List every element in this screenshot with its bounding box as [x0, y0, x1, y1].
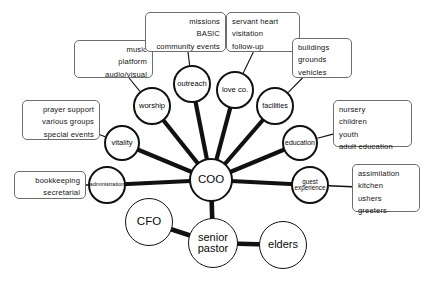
node-facilities[interactable]: facilities	[256, 87, 294, 125]
node-label-vitality: vitality	[110, 139, 133, 147]
node-label-guest-experience: guestexperience	[294, 179, 327, 192]
detail-line: vehicles	[298, 67, 346, 79]
node-label-education: education	[284, 139, 316, 146]
node-label-cfo: CFO	[136, 216, 162, 228]
detail-line: BASIC	[151, 28, 220, 40]
detail-line: secretarial	[20, 187, 80, 199]
node-outreach[interactable]: outreach	[173, 65, 211, 103]
node-label-facilities: facilities	[261, 102, 289, 109]
detail-line: platform	[80, 56, 147, 68]
node-label-elders: elders	[267, 239, 299, 250]
detail-line: visitation	[232, 28, 294, 40]
detail-line: assimilation	[358, 168, 414, 180]
detail-box-prayer: prayer supportvarious groupsspecial even…	[22, 100, 100, 140]
node-administration[interactable]: administration	[88, 166, 126, 204]
detail-line: youth	[339, 129, 406, 141]
node-label-worship: worship	[138, 102, 166, 110]
detail-box-servant: servant heartvisitationfollow-up	[226, 12, 300, 52]
detail-box-buildings: buildingsgroundsvehicles	[292, 38, 352, 78]
node-label-love-co: love co.	[221, 86, 249, 94]
detail-line: greeters	[358, 205, 414, 217]
connector-facilities-buildings	[288, 78, 302, 92]
connector-education-nursery	[317, 134, 333, 138]
node-elders[interactable]: elders	[259, 221, 307, 269]
connector-guest-assimilation	[329, 186, 352, 187]
node-cfo[interactable]: CFO	[125, 198, 173, 246]
node-coo[interactable]: COO	[189, 158, 233, 202]
detail-box-missions: missionsBASICcommunity events	[145, 12, 226, 52]
node-worship[interactable]: worship	[133, 87, 171, 125]
detail-line: missions	[151, 16, 220, 28]
detail-line: nursery	[339, 104, 406, 116]
connector-outreach-missions	[188, 52, 190, 65]
node-label-senior-pastor: seniorpastor	[197, 232, 230, 255]
detail-line: kitchen	[358, 180, 414, 192]
detail-line: children	[339, 116, 406, 128]
detail-line: bookkeeping	[20, 175, 80, 187]
detail-line: buildings	[298, 42, 346, 54]
node-label-outreach: outreach	[176, 80, 208, 88]
detail-line: community events	[151, 41, 220, 53]
detail-box-nursery: nurserychildrenyouthadult education	[333, 100, 412, 147]
detail-line: servant heart	[232, 16, 294, 28]
detail-line: special events	[28, 129, 94, 141]
detail-line: ushers	[358, 193, 414, 205]
node-label-administration: administration	[89, 182, 126, 188]
detail-line: follow-up	[232, 41, 294, 53]
node-education[interactable]: education	[282, 125, 318, 161]
node-love-co[interactable]: love co.	[216, 71, 254, 109]
detail-line: grounds	[298, 54, 346, 66]
detail-line: various groups	[28, 116, 94, 128]
node-vitality[interactable]: vitality	[104, 125, 140, 161]
detail-box-assimilation: assimilationkitchenushersgreeters	[352, 164, 420, 212]
detail-line: music	[80, 44, 147, 56]
node-label-coo: COO	[197, 174, 225, 186]
detail-line: adult education	[339, 141, 406, 153]
diagram-canvas: COOseniorpastorCFOeldersworshipoutreachl…	[0, 0, 427, 286]
node-senior-pastor[interactable]: seniorpastor	[188, 218, 238, 268]
connector-love-co-servant	[243, 52, 253, 73]
detail-line: audio/visual	[80, 69, 147, 81]
node-guest-experience[interactable]: guestexperience	[291, 166, 329, 204]
detail-box-bookkeeping: bookkeepingsecretarial	[14, 171, 86, 199]
detail-line: prayer support	[28, 104, 94, 116]
detail-box-music: musicplatformaudio/visual	[74, 40, 153, 78]
